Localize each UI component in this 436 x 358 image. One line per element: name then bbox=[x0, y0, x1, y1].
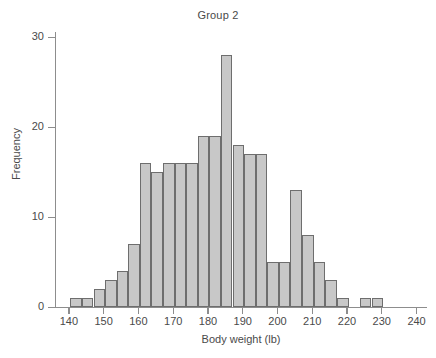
x-axis-tick bbox=[381, 308, 382, 314]
y-axis-tick-label: 10 bbox=[4, 211, 44, 222]
histogram-bar bbox=[128, 244, 140, 307]
histogram-bar bbox=[105, 280, 117, 307]
y-axis-tick-label: 0 bbox=[4, 301, 44, 312]
y-axis-tick bbox=[48, 37, 55, 38]
histogram-bar bbox=[209, 136, 221, 307]
x-axis-tick bbox=[68, 308, 69, 314]
histogram-bar bbox=[314, 262, 326, 307]
histogram-bar bbox=[117, 271, 129, 307]
histogram-bar bbox=[94, 289, 106, 307]
x-axis-tick bbox=[416, 308, 417, 314]
histogram-bar bbox=[82, 298, 94, 307]
histogram-bar bbox=[337, 298, 349, 307]
x-axis-tick bbox=[277, 308, 278, 314]
histogram-bar bbox=[70, 298, 82, 307]
histogram-bar bbox=[233, 145, 245, 307]
x-axis-tick bbox=[138, 308, 139, 314]
histogram-bar bbox=[151, 172, 163, 307]
histogram-bar bbox=[372, 298, 384, 307]
histogram-bar bbox=[221, 55, 233, 307]
y-axis-label: Frequency bbox=[10, 104, 22, 204]
x-axis-tick bbox=[173, 308, 174, 314]
histogram-bar bbox=[279, 262, 291, 307]
x-axis-tick bbox=[312, 308, 313, 314]
histogram-bar bbox=[244, 154, 256, 307]
histogram-bar bbox=[360, 298, 372, 307]
histogram-bar bbox=[186, 163, 198, 307]
histogram-bar bbox=[290, 190, 302, 307]
y-axis-tick bbox=[48, 307, 55, 308]
histogram-bar bbox=[198, 136, 210, 307]
histogram-bar bbox=[140, 163, 152, 307]
x-axis-label: Body weight (lb) bbox=[55, 333, 427, 345]
histogram-bar bbox=[302, 235, 314, 307]
chart-title: Group 2 bbox=[0, 9, 436, 21]
x-axis-tick bbox=[346, 308, 347, 314]
y-axis-tick bbox=[48, 127, 55, 128]
histogram-bar bbox=[163, 163, 175, 307]
histogram-figure: Group 2 0102030 140150160170180190200210… bbox=[0, 0, 436, 358]
y-axis-tick bbox=[48, 217, 55, 218]
y-axis-tick-label: 30 bbox=[4, 31, 44, 42]
x-axis-tick bbox=[207, 308, 208, 314]
histogram-bar bbox=[175, 163, 187, 307]
histogram-bar bbox=[267, 262, 279, 307]
histogram-bar bbox=[256, 154, 268, 307]
histogram-bar bbox=[325, 280, 337, 307]
x-axis-tick-label: 240 bbox=[397, 316, 436, 327]
x-axis-tick bbox=[103, 308, 104, 314]
x-axis-tick bbox=[242, 308, 243, 314]
